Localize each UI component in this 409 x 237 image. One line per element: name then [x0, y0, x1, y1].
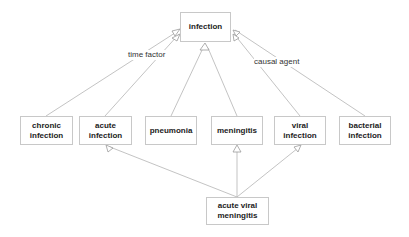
node-bacterial-infection[interactable]: bacterial infection: [339, 116, 391, 145]
diagram-canvas: time factor causal agent infection chron…: [0, 0, 409, 237]
node-pneumonia[interactable]: pneumonia: [145, 116, 197, 145]
node-viral-infection[interactable]: viral infection: [274, 116, 326, 145]
node-acute-infection[interactable]: acute infection: [79, 116, 132, 145]
node-label: viral infection: [277, 121, 323, 141]
arrowhead-icon: [294, 145, 301, 152]
node-label: chronic infection: [23, 121, 70, 141]
node-label: meningitis: [217, 126, 257, 136]
node-meningitis[interactable]: meningitis: [211, 116, 263, 145]
node-label: pneumonia: [150, 126, 193, 136]
arrowhead-icon: [106, 145, 113, 152]
edge-acute-to-infection: [105, 34, 179, 116]
node-label: bacterial infection: [342, 121, 388, 141]
edge-label-causal-agent: causal agent: [254, 57, 299, 67]
node-label: acute viral meningitis: [209, 201, 266, 221]
edge-chronic-to-infection: [46, 31, 178, 116]
arrowhead-icon: [200, 43, 209, 50]
edge-label-time-factor: time factor: [128, 50, 165, 60]
node-chronic-infection[interactable]: chronic infection: [20, 116, 73, 145]
node-label: infection: [189, 22, 222, 32]
arrowhead-icon: [233, 145, 241, 152]
edge-bacterial-to-infection: [235, 30, 365, 116]
node-acute-viral-meningitis[interactable]: acute viral meningitis: [206, 197, 269, 225]
edge-pneumonia-to-infection: [171, 48, 203, 116]
edge-avm-to-viral: [237, 148, 298, 197]
node-infection[interactable]: infection: [180, 12, 231, 42]
edge-viral-to-infection: [234, 34, 300, 116]
edge-meningitis-to-infection: [208, 48, 237, 116]
node-label: acute infection: [82, 121, 129, 141]
edge-avm-to-acute: [110, 147, 237, 197]
